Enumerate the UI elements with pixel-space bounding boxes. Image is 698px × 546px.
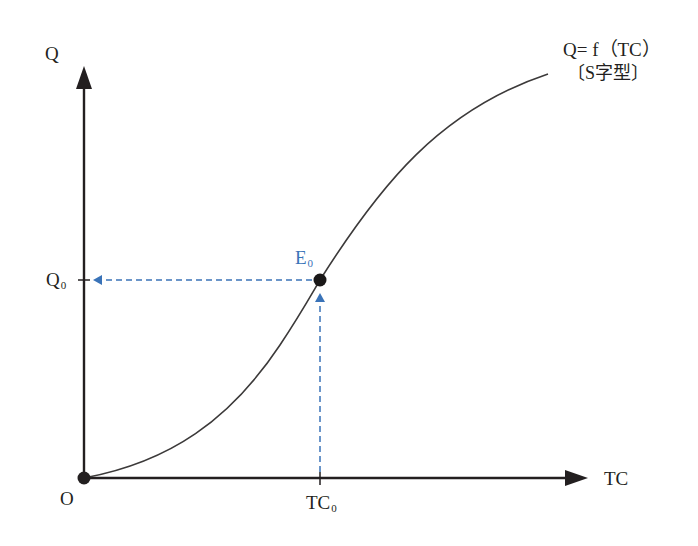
curve-label-type: 〔S字型〕 [567, 64, 649, 82]
point-e0-label-sub: 0 [308, 257, 314, 269]
x-axis-arrow-icon [565, 470, 588, 486]
q0-guide-arrow-icon [93, 275, 102, 285]
tc0-label-main: TC [306, 492, 330, 513]
y-axis-label: Q [45, 44, 59, 63]
q0-label-main: Q [46, 269, 60, 290]
curve-label-function: Q= f（TC） [563, 40, 661, 59]
q0-label-sub: 0 [61, 279, 67, 291]
y-axis-arrow-icon [76, 66, 92, 89]
q0-label: Q0 [46, 270, 66, 289]
tc0-label: TC0 [306, 493, 337, 512]
tc0-label-sub: 0 [331, 502, 337, 514]
origin-label: O [60, 489, 74, 508]
origin-point [78, 472, 91, 485]
x-axis-label: TC [604, 469, 628, 488]
tc0-guide-arrow-icon [315, 293, 325, 302]
point-e0 [314, 274, 327, 287]
point-e0-label: E0 [295, 248, 313, 267]
point-e0-label-main: E [295, 247, 307, 268]
